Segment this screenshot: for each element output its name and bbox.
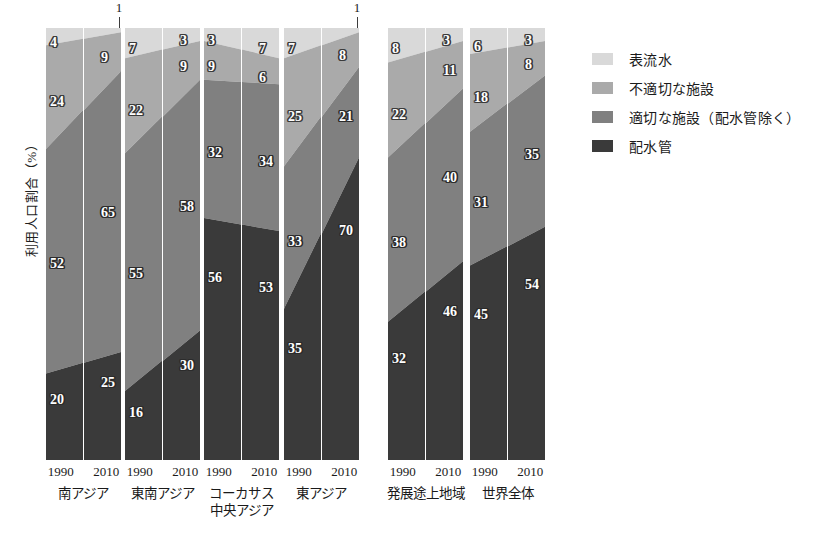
x-axis-year: 2010 (93, 464, 119, 480)
stacked-bar[interactable] (163, 28, 200, 460)
bar-group: 6183145383554 (470, 28, 545, 460)
area-band (204, 80, 241, 225)
legend-swatch-icon (592, 82, 613, 94)
x-axis-group: 19902010東南アジア (117, 464, 208, 503)
stacked-bar[interactable] (84, 28, 121, 460)
area-band (125, 117, 162, 391)
legend-label: 適切な施設（配水管除く） (629, 107, 801, 127)
chart-legend: 表流水不適切な施設適切な施設（配水管除く）配水管 (592, 44, 820, 160)
area-band (46, 110, 83, 374)
x-axis-year: 1990 (286, 464, 312, 480)
legend-swatch-icon (592, 111, 613, 123)
x-axis-years: 19902010 (196, 464, 287, 480)
x-axis-years: 19902010 (117, 464, 208, 480)
y-axis-label: 利用人口割合（%） (21, 118, 40, 278)
x-axis-group: 19902010東アジア (276, 464, 367, 503)
legend-item[interactable]: 適切な施設（配水管除く） (592, 102, 820, 131)
area-band (426, 261, 463, 460)
chart-root: 利用人口割合（%） 424522096525722551639583039325… (0, 0, 826, 553)
x-axis-group: 19902010南アジア (38, 464, 129, 503)
x-axis-years: 19902010 (462, 464, 553, 480)
x-axis-year: 2010 (517, 464, 543, 480)
x-axis-years: 19902010 (38, 464, 129, 480)
stacked-bar[interactable] (388, 28, 425, 460)
area-band (508, 76, 545, 247)
stacked-bar[interactable] (284, 28, 321, 460)
legend-label: 配水管 (629, 136, 672, 156)
area-band (508, 227, 545, 460)
legend-swatch-icon (592, 140, 613, 152)
x-axis-group: 19902010世界全体 (462, 464, 553, 503)
x-axis-year: 2010 (435, 464, 461, 480)
stacked-bar[interactable] (242, 28, 279, 460)
bar-group: 7225516395830 (125, 28, 200, 460)
label-leader-line (357, 17, 358, 28)
x-axis: 19902010南アジア19902010東南アジア19902010コーカサス 中… (46, 464, 606, 550)
area-band (388, 123, 425, 322)
bar-group: 393256763453 (204, 28, 279, 460)
bar-group: 82238323114046 (388, 28, 463, 460)
legend-item[interactable]: 表流水 (592, 44, 820, 73)
outside-value-label: 1 (109, 1, 129, 14)
bar-group: 725333582170 (284, 28, 359, 460)
area-band (426, 88, 463, 291)
legend-swatch-icon (592, 53, 613, 65)
outside-value-label: 1 (347, 1, 367, 14)
area-band (84, 71, 121, 363)
x-axis-year: 1990 (127, 464, 153, 480)
x-axis-year: 1990 (390, 464, 416, 480)
x-axis-year: 1990 (206, 464, 232, 480)
legend-item[interactable]: 不適切な施設 (592, 73, 820, 102)
x-axis-years: 19902010 (380, 464, 471, 480)
stacked-bar[interactable] (204, 28, 241, 460)
area-band (470, 246, 507, 460)
stacked-bar[interactable] (426, 28, 463, 460)
x-axis-group: 19902010発展途上地域 (380, 464, 471, 503)
x-axis-years: 19902010 (276, 464, 367, 480)
plot-area: 4245220965257225516395830393256763453725… (46, 28, 546, 460)
x-axis-year: 2010 (172, 464, 198, 480)
stacked-bar[interactable] (508, 28, 545, 460)
stacked-bar[interactable] (322, 28, 359, 460)
area-band (470, 104, 507, 266)
stacked-bar[interactable] (46, 28, 83, 460)
stacked-bar[interactable] (125, 28, 162, 460)
area-band (46, 363, 83, 460)
x-axis-region-label: 東南アジア (117, 486, 208, 503)
area-band (242, 225, 279, 460)
x-axis-year: 1990 (48, 464, 74, 480)
area-band (242, 82, 279, 231)
legend-label: 不適切な施設 (629, 78, 715, 98)
bar-group: 424522096525 (46, 28, 121, 460)
area-band (84, 352, 121, 460)
x-axis-year: 2010 (331, 464, 357, 480)
legend-item[interactable]: 配水管 (592, 131, 820, 160)
x-axis-region-label: 発展途上地域 (380, 486, 471, 503)
label-leader-line (119, 17, 120, 28)
x-axis-region-label: 東アジア (276, 486, 367, 503)
area-band (204, 218, 241, 460)
x-axis-year: 2010 (251, 464, 277, 480)
x-axis-group: 19902010コーカサス 中央アジア (196, 464, 287, 520)
x-axis-region-label: 南アジア (38, 486, 129, 503)
area-band (163, 80, 200, 361)
stacked-bar[interactable] (470, 28, 507, 460)
legend-label: 表流水 (629, 49, 672, 69)
x-axis-region-label: コーカサス 中央アジア (196, 486, 287, 520)
x-axis-year: 1990 (472, 464, 498, 480)
x-axis-region-label: 世界全体 (462, 486, 553, 503)
